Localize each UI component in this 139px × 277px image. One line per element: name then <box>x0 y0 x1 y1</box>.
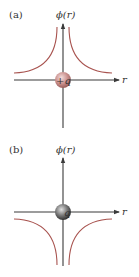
y-axis-label: ϕ(r) <box>56 144 75 155</box>
panel-a: (a) ϕ(r) r +q <box>9 9 128 128</box>
potential-curve-right <box>69 219 112 265</box>
y-axis-label: ϕ(r) <box>56 9 75 20</box>
potential-diagram: (a) ϕ(r) r +q (b) ϕ(r) r q <box>0 0 139 277</box>
panel-label: (b) <box>9 144 23 155</box>
charge-label: q <box>64 207 70 218</box>
panel-b: (b) ϕ(r) r q <box>9 144 128 266</box>
charge-label: +q <box>56 75 71 86</box>
panel-label: (a) <box>9 9 23 20</box>
potential-curve-left <box>14 27 57 73</box>
potential-curve-right <box>69 27 112 73</box>
potential-curve-left <box>14 219 57 265</box>
x-axis-label: r <box>122 74 128 85</box>
x-axis-label: r <box>122 206 128 217</box>
